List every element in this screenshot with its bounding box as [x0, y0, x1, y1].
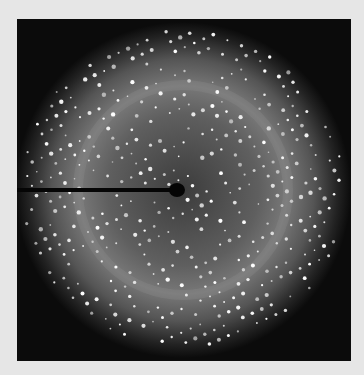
- beam-stop-arm: [17, 188, 177, 192]
- diffraction-image: X-ray diffraction pattern: [17, 19, 351, 361]
- beam-stop: [169, 183, 185, 197]
